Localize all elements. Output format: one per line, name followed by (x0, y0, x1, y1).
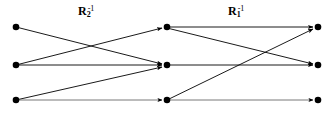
node-R1 (315, 24, 322, 31)
node-L2 (13, 62, 20, 69)
edge-M1-R2 (167, 28, 313, 64)
edge-M3-R1 (167, 29, 313, 100)
relation-label-r2-inverse: R2-1 (78, 5, 94, 17)
nodes-layer (13, 24, 322, 104)
node-M3 (164, 97, 171, 104)
node-R3 (315, 97, 322, 104)
relation-label-r1-base: R (228, 4, 237, 18)
relation-composition-diagram: R2-1 R1-1 (0, 0, 335, 118)
relation-label-r2-superscript: -1 (88, 4, 95, 13)
node-M1 (164, 24, 171, 31)
edge-L3-M2 (16, 67, 162, 100)
node-L3 (13, 97, 20, 104)
node-R2 (315, 62, 322, 69)
diagram-canvas (0, 0, 335, 118)
relation-label-r1-inverse: R1-1 (228, 5, 244, 17)
edge-L2-M1 (16, 28, 162, 65)
node-M2 (164, 62, 171, 69)
relation-label-r2-base: R (78, 4, 87, 18)
edge-L1-M2 (16, 27, 162, 64)
node-L1 (13, 24, 20, 31)
relation-label-r1-superscript: -1 (238, 4, 245, 13)
